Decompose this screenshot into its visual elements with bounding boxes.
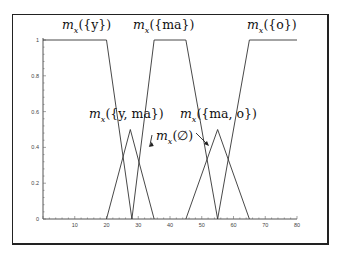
y-tick-label: 0.4 <box>31 144 39 150</box>
label-m-y: mx({y}) <box>62 17 111 35</box>
series-line <box>218 40 297 219</box>
x-tick-label: 30 <box>135 222 141 228</box>
label-m-empty: mx(∅) <box>156 128 193 146</box>
series-line <box>186 130 250 220</box>
y-tick-label: 0.6 <box>31 109 39 115</box>
arrowhead-icon <box>149 142 154 147</box>
x-tick-label: 70 <box>262 222 268 228</box>
label-m-y-ma: mx({y, ma}) <box>89 106 164 124</box>
y-tick-label: 0.2 <box>31 180 39 186</box>
label-m-ma-o: mx({ma, o}) <box>180 106 257 124</box>
x-tick-label: 50 <box>199 222 205 228</box>
x-tick-label: 40 <box>167 222 173 228</box>
x-tick-label: 10 <box>72 222 78 228</box>
y-tick-label: 1 <box>36 37 39 43</box>
x-tick-label: 20 <box>103 222 109 228</box>
x-tick-label: 60 <box>230 222 236 228</box>
arrow-empty-right <box>196 133 207 144</box>
y-tick-label: 0.8 <box>31 73 39 79</box>
label-m-ma: mx({ma}) <box>133 17 194 35</box>
y-tick-label: 0 <box>36 216 39 222</box>
label-m-o: mx({o}) <box>247 17 297 35</box>
series-line <box>43 40 132 219</box>
x-tick-label: 80 <box>294 222 300 228</box>
